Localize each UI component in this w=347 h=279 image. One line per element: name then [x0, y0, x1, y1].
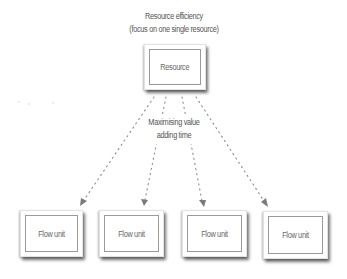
flow-unit-label-2: Flow unit	[118, 229, 145, 239]
arrow-to-flow-unit-2	[145, 97, 166, 200]
middle-label-line-2: adding time	[140, 130, 209, 140]
flow-unit-box-3: Flow unit	[182, 210, 247, 257]
flow-unit-label-1: Flow unit	[38, 229, 65, 239]
arrow-to-flow-unit-3	[182, 97, 202, 201]
flow-unit-box-1-inner: Flow unit	[25, 215, 78, 252]
resource-box: Resource	[144, 44, 206, 90]
arrowhead-4	[261, 198, 268, 207]
arrow-to-flow-unit-1	[84, 97, 154, 200]
flow-unit-box-2: Flow unit	[99, 210, 164, 257]
flow-unit-label-3: Flow unit	[201, 229, 228, 239]
flow-unit-box-4-inner: Flow unit	[268, 216, 323, 254]
arrowhead-3	[199, 200, 206, 207]
arrowhead-2	[141, 199, 148, 206]
flow-unit-box-3-inner: Flow unit	[187, 215, 242, 252]
arrowhead-1	[80, 198, 87, 206]
flow-unit-box-1: Flow unit	[20, 210, 83, 257]
resource-box-inner: Resource	[149, 49, 201, 85]
stray-mark	[18, 101, 20, 103]
arrow-to-flow-unit-4	[196, 97, 264, 201]
stray-mark	[28, 103, 30, 105]
flow-unit-box-4: Flow unit	[263, 211, 328, 259]
resource-label: Resource	[161, 62, 190, 72]
middle-label-line-1: Maximising value	[140, 117, 209, 127]
flow-unit-label-4: Flow unit	[282, 230, 309, 240]
stray-mark	[52, 102, 54, 104]
flow-unit-box-2-inner: Flow unit	[104, 215, 159, 252]
